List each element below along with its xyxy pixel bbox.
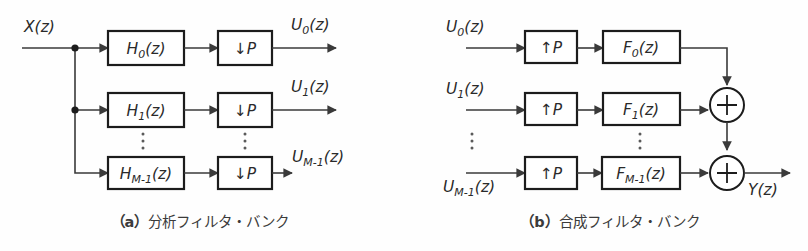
panel-b-upsampler-label-1: ↑P [540, 101, 563, 119]
panel-a-downsampler-label-last: ↓P [234, 165, 257, 183]
panel-a-caption: （a）分析フィルタ・バンク [111, 213, 290, 230]
panel-b-caption: （b）合成フィルタ・バンク [520, 213, 699, 230]
panel-a-filter-label-0: H0(z) [127, 40, 166, 61]
panel-b-row-last: UM-1(z) ↑P FM-1(z) [443, 157, 708, 199]
panel-b-input-label-0: U0(z) [446, 18, 485, 39]
panel-b-upsampler-label-0: ↑P [540, 39, 563, 57]
panel-a-downsampler-label-0: ↓P [234, 40, 257, 58]
panel-b-row-0: U0(z) ↑P F0(z) [446, 18, 727, 85]
panel-b-adder-last [710, 156, 744, 190]
panel-b-input-label-last: UM-1(z) [443, 178, 495, 199]
panel-a-tap-node-0 [71, 44, 78, 51]
panel-b-input-label-1: U1(z) [446, 80, 485, 101]
panel-a-row-last: HM-1(z) ↓P UM-1(z) [108, 148, 344, 189]
panel-b-synthesis-filter-bank: U0(z) ↑P F0(z) U1(z) ↑P F1(z) [443, 18, 790, 230]
panel-b-adder-0 [710, 88, 744, 122]
filter-bank-figure: X(z) H0(z) ↓P U0(z) H1(z) ↓P U1(z) [0, 0, 808, 251]
panel-b-row-1: U1(z) ↑P F1(z) [446, 80, 708, 125]
panel-b-ellipsis-upsamplers [471, 133, 474, 150]
panel-b-upsampler-label-last: ↑P [540, 165, 563, 183]
panel-b-output-label: Y(z) [748, 181, 778, 199]
figure-container: X(z) H0(z) ↓P U0(z) H1(z) ↓P U1(z) [0, 0, 808, 251]
panel-b-filter-label-1: F1(z) [623, 101, 659, 122]
panel-a-analysis-filter-bank: X(z) H0(z) ↓P U0(z) H1(z) ↓P U1(z) [22, 16, 344, 230]
panel-a-input-label: X(z) [23, 18, 55, 36]
panel-a-trunk-bus [71, 44, 108, 173]
panel-a-row-0: H0(z) ↓P U0(z) [108, 16, 336, 65]
panel-a-ellipsis-filters [142, 133, 145, 150]
panel-b-filter-label-0: F0(z) [623, 39, 659, 60]
panel-a-row-1: H1(z) ↓P U1(z) [108, 78, 336, 127]
panel-a-ellipsis-downsamplers [244, 133, 247, 150]
panel-a-tap-node-1 [71, 106, 78, 113]
panel-a-filter-label-1: H1(z) [127, 102, 166, 123]
panel-a-output-label-0: U0(z) [291, 16, 330, 37]
panel-b-ellipsis-filters [639, 133, 642, 150]
panel-a-downsampler-label-1: ↓P [234, 102, 257, 120]
panel-a-output-label-1: U1(z) [291, 78, 330, 99]
panel-a-output-label-last: UM-1(z) [292, 148, 344, 169]
